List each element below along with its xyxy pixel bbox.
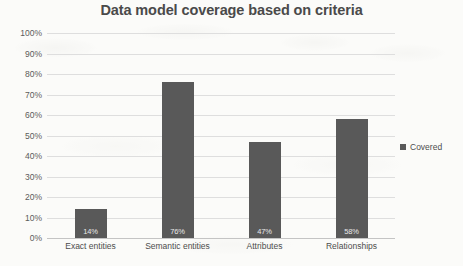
bar-relationships[interactable]: 58% — [336, 119, 368, 238]
bar-slot: 47% — [221, 33, 308, 238]
bar-value-label: 58% — [344, 227, 358, 238]
chart-title: Data model coverage based on criteria — [0, 2, 463, 18]
bar-value-label: 76% — [170, 227, 184, 238]
x-axis-labels: Exact entities Semantic entities Attribu… — [47, 241, 395, 251]
ytick-label-80: 80% — [25, 69, 42, 79]
legend-label-covered: Covered — [410, 142, 442, 152]
ytick-label-50: 50% — [25, 131, 42, 141]
bar-slot: 58% — [308, 33, 395, 238]
bar-semantic-entities[interactable]: 76% — [162, 82, 194, 238]
legend-swatch-covered — [400, 144, 406, 150]
ytick-label-60: 60% — [25, 110, 42, 120]
ytick-label-100: 100% — [20, 28, 42, 38]
ytick-label-90: 90% — [25, 49, 42, 59]
gridline-0: 0% — [47, 238, 395, 239]
ytick-label-0: 0% — [30, 233, 42, 243]
bars-layer: 14% 76% 47% 58% — [47, 33, 395, 238]
ytick-label-20: 20% — [25, 192, 42, 202]
bar-chart: Data model coverage based on criteria 10… — [0, 0, 463, 266]
xlabel-relationships: Relationships — [308, 241, 395, 251]
bar-slot: 76% — [134, 33, 221, 238]
xlabel-semantic-entities: Semantic entities — [134, 241, 221, 251]
bar-value-label: 47% — [257, 227, 271, 238]
ytick-label-30: 30% — [25, 172, 42, 182]
bar-slot: 14% — [47, 33, 134, 238]
ytick-label-10: 10% — [25, 213, 42, 223]
ytick-label-70: 70% — [25, 90, 42, 100]
xlabel-exact-entities: Exact entities — [47, 241, 134, 251]
bar-value-label: 14% — [83, 227, 97, 238]
ytick-label-40: 40% — [25, 151, 42, 161]
xlabel-attributes: Attributes — [221, 241, 308, 251]
chart-legend: Covered — [400, 142, 442, 152]
bar-exact-entities[interactable]: 14% — [75, 209, 107, 238]
bar-attributes[interactable]: 47% — [249, 142, 281, 238]
plot-area: 100% 90% 80% 70% 60% 50% 40% 30% 20% 10% — [47, 33, 395, 238]
